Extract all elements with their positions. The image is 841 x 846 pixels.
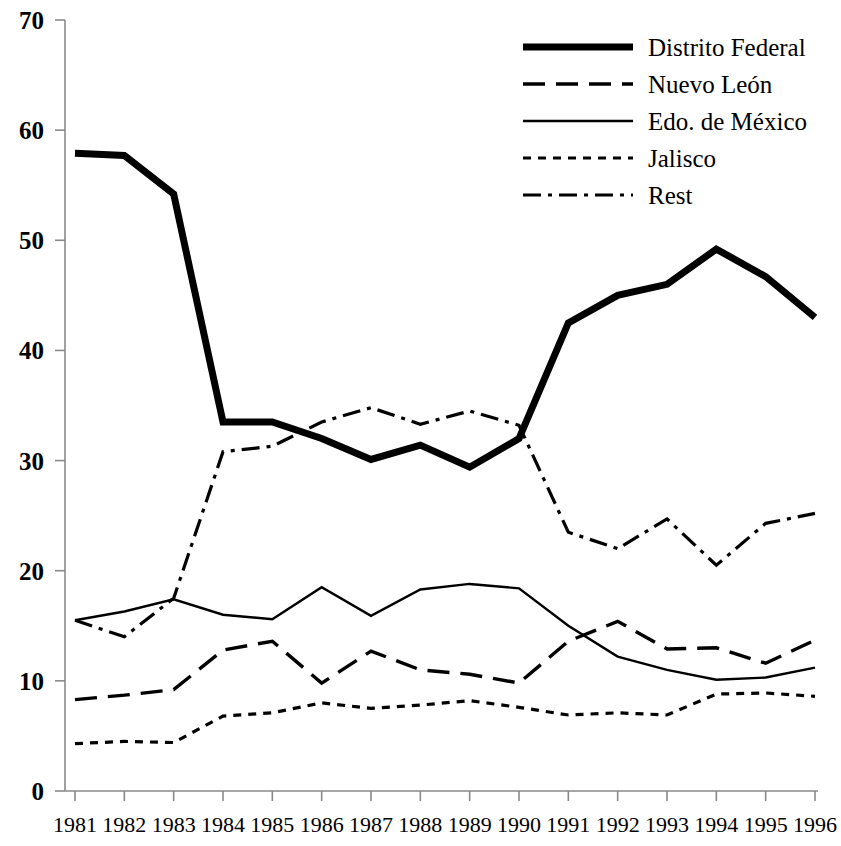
- y-tick-label: 30: [19, 448, 44, 475]
- y-tick-label: 50: [19, 227, 44, 254]
- x-tick-label: 1994: [694, 812, 738, 837]
- y-tick-label: 10: [19, 668, 44, 695]
- x-tick-label: 1982: [102, 812, 146, 837]
- x-tick-label: 1986: [300, 812, 344, 837]
- chart-legend: Distrito FederalNuevo LeónEdo. de México…: [523, 34, 807, 209]
- chart-figure: 010203040506070 198119821983198419851986…: [0, 0, 841, 846]
- x-tick-label: 1985: [250, 812, 294, 837]
- x-tick-label: 1996: [793, 812, 837, 837]
- x-tick-label: 1984: [201, 812, 245, 837]
- x-tick-label: 1981: [53, 812, 97, 837]
- x-tick-label: 1993: [645, 812, 689, 837]
- x-tick-label: 1983: [152, 812, 196, 837]
- x-axis-ticks: 1981198219831984198519861987198819891990…: [53, 791, 837, 837]
- x-tick-label: 1992: [596, 812, 640, 837]
- legend-label-jalisco: Jalisco: [648, 145, 716, 172]
- line-chart-plot: 010203040506070 198119821983198419851986…: [0, 0, 841, 846]
- x-tick-label: 1989: [448, 812, 492, 837]
- x-tick-label: 1995: [744, 812, 788, 837]
- legend-label-rest: Rest: [648, 182, 693, 209]
- x-tick-label: 1988: [398, 812, 442, 837]
- series-line-jalisco: [75, 693, 815, 744]
- series-line-nuevo-le-n: [75, 621, 815, 699]
- y-tick-label: 20: [19, 558, 44, 585]
- legend-label-edo-de-m-xico: Edo. de México: [648, 108, 807, 135]
- y-axis-ticks: 010203040506070: [19, 7, 65, 805]
- series-line-edo-de-m-xico: [75, 584, 815, 680]
- legend-label-distrito-federal: Distrito Federal: [648, 34, 806, 61]
- series-line-distrito-federal: [75, 153, 815, 467]
- y-tick-label: 70: [19, 7, 44, 34]
- legend-label-nuevo-le-n: Nuevo León: [648, 71, 773, 98]
- axes-group: [65, 20, 818, 791]
- y-tick-label: 0: [32, 778, 45, 805]
- y-tick-label: 40: [19, 337, 44, 364]
- x-tick-label: 1987: [349, 812, 393, 837]
- x-tick-label: 1991: [546, 812, 590, 837]
- y-tick-label: 60: [19, 117, 44, 144]
- x-tick-label: 1990: [497, 812, 541, 837]
- data-series-group: [75, 153, 815, 743]
